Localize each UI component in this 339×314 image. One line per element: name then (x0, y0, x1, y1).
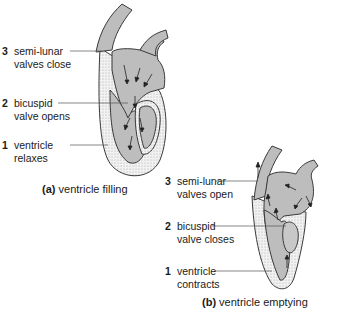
caption-a: (a) ventricle filling (42, 183, 128, 195)
heart-a (58, 4, 168, 176)
caption-b: (b) ventricle emptying (202, 296, 308, 308)
heart-b (212, 146, 318, 289)
